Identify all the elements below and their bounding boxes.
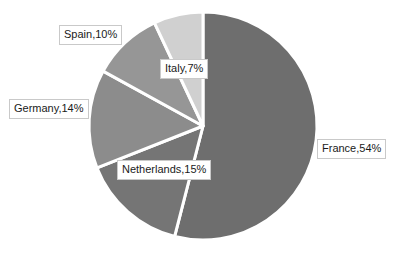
- pie-label-netherlands: Netherlands,15%: [117, 160, 211, 180]
- pie-label-italy: Italy,7%: [160, 59, 208, 79]
- pie-label-france: France,54%: [317, 139, 386, 159]
- pie-slice-group: [89, 12, 317, 240]
- pie-label-spain: Spain,10%: [59, 25, 122, 45]
- pie-chart: Spain,10% Italy,7% Germany,14% Netherlan…: [0, 0, 394, 256]
- pie-label-germany: Germany,14%: [9, 99, 89, 119]
